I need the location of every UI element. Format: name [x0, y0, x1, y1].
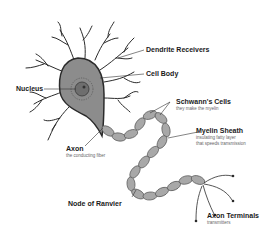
label-cell-body: Cell Body	[146, 70, 178, 78]
label-dendrite-receivers: Dendrite Receivers	[146, 46, 209, 54]
label-terminals-title: Axon Terminals	[207, 212, 259, 219]
label-schwanns-title: Schwann's Cells	[176, 98, 231, 105]
nucleus-shape	[75, 82, 89, 96]
label-terminals-subtitle: transmitters	[207, 220, 259, 226]
label-schwanns-subtitle: they make the myelin	[176, 106, 231, 112]
myelin-sheath-segments	[100, 109, 206, 201]
label-myelin-subtitle-2: that speeds transmission	[196, 141, 246, 147]
label-node-of-ranvier: Node of Ranvier	[68, 200, 122, 208]
label-myelin-sheath: Myelin Sheath insulating fatty layer tha…	[196, 127, 246, 146]
label-axon-terminals: Axon Terminals transmitters	[207, 212, 259, 226]
label-nucleus: Nucleus	[16, 85, 43, 93]
neuron-diagram	[0, 0, 270, 237]
label-axon-subtitle: the conducting fiber	[66, 153, 105, 159]
label-axon: Axon the conducting fiber	[66, 145, 105, 159]
label-axon-title: Axon	[66, 145, 84, 152]
cell-body-shape	[60, 58, 104, 136]
label-schwanns-cells: Schwann's Cells they make the myelin	[176, 98, 231, 112]
nucleolus	[83, 86, 86, 89]
label-myelin-title: Myelin Sheath	[196, 127, 243, 134]
